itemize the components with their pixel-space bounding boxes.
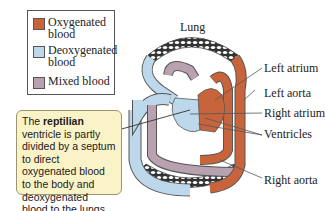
legend-label-2: blood [48, 55, 75, 69]
legend-item-deoxygenated: Deoxygenatedblood [33, 44, 117, 68]
callout-bold: reptilian [43, 115, 84, 127]
legend-label-2: blood [48, 27, 75, 41]
left-atrium-label: Left atrium [264, 61, 318, 76]
left-aorta-label: Left aorta [264, 86, 311, 101]
lung-label: Lung [180, 20, 205, 35]
lung-capillaries [148, 38, 238, 63]
mixed-swatch [33, 77, 45, 89]
oxygenated-swatch [33, 18, 45, 30]
callout-prefix: The [22, 115, 43, 127]
right-atrium-label: Right atrium [264, 106, 325, 121]
left-atrium-shape [198, 89, 225, 133]
callout-box: The reptilian ventricle is partly divide… [16, 110, 122, 195]
legend-item-oxygenated: Oxygenatedblood [33, 16, 106, 40]
legend: Oxygenatedblood Deoxygenatedblood Mixed … [27, 10, 115, 95]
deoxygenated-swatch [33, 46, 45, 58]
right-aorta-label: Right aorta [264, 173, 318, 188]
legend-item-mixed: Mixed blood [33, 75, 110, 89]
right-atrium-shape [172, 98, 200, 132]
legend-label: Mixed blood [48, 75, 110, 87]
ventricles-label: Ventricles [264, 127, 312, 142]
